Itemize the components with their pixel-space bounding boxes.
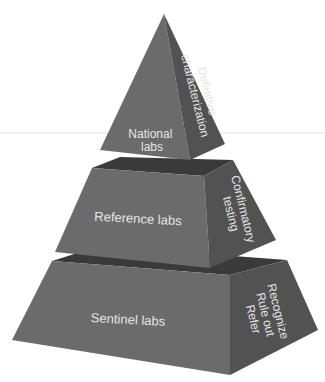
- tier-top: National labs Definitive characterizatio…: [100, 14, 225, 160]
- tier-middle: Reference labs Confirmatory testing: [55, 157, 276, 268]
- lab-pyramid-diagram: Sentinel labs Recognize Rule out Refer R…: [0, 0, 325, 382]
- tier-bottom: Sentinel labs Recognize Rule out Refer: [12, 246, 318, 375]
